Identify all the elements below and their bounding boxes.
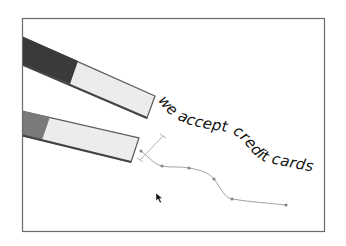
anchor-point[interactable] xyxy=(160,164,163,167)
anchor-point[interactable] xyxy=(212,177,215,180)
illustration-canvas: we accept credit cards xyxy=(0,0,346,246)
anchor-point[interactable] xyxy=(230,197,233,200)
anchor-point[interactable] xyxy=(284,203,287,206)
anchor-point[interactable] xyxy=(187,166,190,169)
anchor-point[interactable] xyxy=(139,149,142,152)
illustration-svg: we accept credit cards xyxy=(0,0,346,246)
